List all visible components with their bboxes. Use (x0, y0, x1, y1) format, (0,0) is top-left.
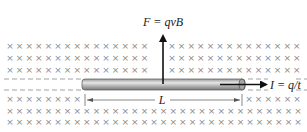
field-x-mark: × (198, 106, 206, 116)
field-x-mark: × (54, 117, 62, 127)
field-x-mark: × (6, 106, 14, 116)
field-x-mark: × (73, 53, 81, 63)
field-x-mark: × (178, 53, 186, 63)
field-x-mark: × (112, 65, 120, 75)
field-x-mark: × (93, 41, 101, 51)
field-x-mark: × (102, 41, 110, 51)
field-x-mark: × (93, 65, 101, 75)
field-x-mark: × (274, 53, 282, 63)
field-x-mark: × (131, 41, 139, 51)
field-x-mark: × (150, 117, 158, 127)
field-x-mark: × (54, 106, 62, 116)
field-x-mark: × (189, 106, 197, 116)
field-x-mark: × (35, 106, 43, 116)
field-x-mark: × (207, 53, 215, 63)
field-x-mark: × (6, 53, 14, 63)
field-x-mark: × (6, 94, 14, 104)
field-x-mark: × (208, 117, 216, 127)
field-x-mark: × (35, 65, 43, 75)
field-x-mark: × (6, 41, 14, 51)
force-label: F = qvB (142, 15, 184, 29)
field-x-mark: × (294, 117, 302, 127)
field-x-mark: × (121, 53, 129, 63)
field-x-mark: × (150, 106, 158, 116)
field-x-mark: × (121, 106, 129, 116)
magnetic-force-diagram: ××××××××××××××××××××××××××××××××××××××××… (0, 0, 307, 132)
field-x-mark: × (16, 41, 24, 51)
field-x-mark: × (197, 41, 205, 51)
field-x-mark: × (168, 53, 176, 63)
current-label: I = q/t (269, 78, 301, 92)
field-x-mark: × (131, 65, 139, 75)
field-x-mark: × (227, 106, 235, 116)
field-x-mark: × (216, 65, 224, 75)
field-x-mark: × (83, 65, 91, 75)
magnetic-field-top: ××××××××××××××××××××××××××××××××××××××××… (6, 41, 300, 75)
field-x-mark: × (64, 94, 72, 104)
field-x-mark: × (141, 65, 149, 75)
field-x-mark: × (274, 94, 282, 104)
field-x-mark: × (131, 106, 139, 116)
field-x-mark: × (64, 65, 72, 75)
field-x-mark: × (245, 53, 253, 63)
field-x-mark: × (141, 106, 149, 116)
field-x-mark: × (6, 117, 14, 127)
field-x-mark: × (255, 53, 263, 63)
field-x-mark: × (178, 41, 186, 51)
field-x-mark: × (131, 117, 139, 127)
field-x-mark: × (169, 106, 177, 116)
length-label: L (158, 93, 166, 107)
field-x-mark: × (73, 94, 81, 104)
field-x-mark: × (16, 117, 24, 127)
field-x-mark: × (168, 41, 176, 51)
field-x-mark: × (207, 41, 215, 51)
field-x-mark: × (285, 117, 293, 127)
field-x-mark: × (54, 65, 62, 75)
field-x-mark: × (237, 106, 245, 116)
field-x-mark: × (121, 41, 129, 51)
field-x-mark: × (169, 117, 177, 127)
field-x-mark: × (283, 53, 291, 63)
field-x-mark: × (235, 65, 243, 75)
field-x-mark: × (293, 41, 301, 51)
field-x-mark: × (207, 65, 215, 75)
field-x-mark: × (93, 117, 101, 127)
field-x-mark: × (45, 41, 53, 51)
field-x-mark: × (25, 53, 33, 63)
field-x-mark: × (255, 94, 263, 104)
field-x-mark: × (6, 65, 14, 75)
field-x-mark: × (235, 41, 243, 51)
field-x-mark: × (35, 117, 43, 127)
field-x-mark: × (54, 94, 62, 104)
field-x-mark: × (246, 117, 254, 127)
field-x-mark: × (264, 53, 272, 63)
field-x-mark: × (73, 41, 81, 51)
field-x-mark: × (255, 41, 263, 51)
field-x-mark: × (226, 53, 234, 63)
field-x-mark: × (293, 94, 301, 104)
field-x-mark: × (217, 117, 225, 127)
field-x-mark: × (121, 117, 129, 127)
field-x-mark: × (160, 117, 168, 127)
field-x-mark: × (16, 106, 24, 116)
field-x-mark: × (198, 117, 206, 127)
field-x-mark: × (245, 41, 253, 51)
field-x-mark: × (35, 41, 43, 51)
field-x-mark: × (64, 53, 72, 63)
field-x-mark: × (121, 65, 129, 75)
field-x-mark: × (141, 53, 149, 63)
field-x-mark: × (264, 65, 272, 75)
field-x-mark: × (274, 41, 282, 51)
field-x-mark: × (255, 65, 263, 75)
field-x-mark: × (294, 106, 302, 116)
field-x-mark: × (246, 106, 254, 116)
field-x-mark: × (25, 94, 33, 104)
field-x-mark: × (64, 41, 72, 51)
field-x-mark: × (141, 117, 149, 127)
field-x-mark: × (265, 106, 273, 116)
field-x-mark: × (73, 106, 81, 116)
field-x-mark: × (227, 117, 235, 127)
field-x-mark: × (226, 65, 234, 75)
field-x-mark: × (73, 65, 81, 75)
field-x-mark: × (168, 65, 176, 75)
